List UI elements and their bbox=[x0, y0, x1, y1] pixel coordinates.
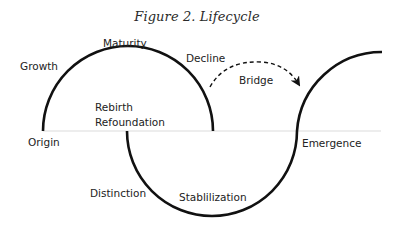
lifecycle-figure: Figure 2. Lifecycle Growth Maturity Decl… bbox=[0, 0, 394, 225]
label-maturity: Maturity bbox=[103, 37, 147, 50]
label-stabilization: Stablilization bbox=[179, 191, 247, 204]
emergence-arc bbox=[297, 52, 382, 131]
label-rebirth: Rebirth bbox=[95, 101, 133, 114]
label-refoundation: Refoundation bbox=[95, 116, 165, 129]
label-decline: Decline bbox=[186, 52, 225, 65]
label-distinction: Distinction bbox=[90, 187, 146, 200]
label-bridge: Bridge bbox=[239, 74, 273, 87]
label-growth: Growth bbox=[20, 60, 58, 73]
label-origin: Origin bbox=[28, 136, 60, 149]
label-emergence: Emergence bbox=[302, 137, 361, 150]
